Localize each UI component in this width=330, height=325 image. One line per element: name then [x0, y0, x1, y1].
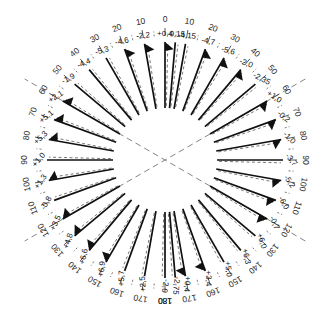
spoke-value-label: +0,4: [182, 276, 192, 293]
spoke-value-label: +3,4: [204, 270, 214, 287]
scale-label: 0: [163, 14, 168, 24]
scale-label: 10: [135, 16, 146, 28]
spoke-value-label: +2,5: [138, 275, 148, 292]
spoke-value-label: -0,15: [167, 29, 186, 39]
scale-label: 90: [301, 155, 311, 165]
scale-label: 80: [21, 130, 33, 141]
scale-label: 180: [158, 296, 172, 306]
polar-diagram-canvas: 0102030405060708090100110120130140150160…: [0, 0, 330, 325]
spoke-value-label: +5,7: [117, 270, 127, 287]
scale-label: 80: [298, 130, 310, 141]
polar-diagram-figure: 0102030405060708090100110120130140150160…: [0, 0, 330, 325]
scale-label: 90: [19, 155, 29, 165]
spoke-value-label: -2,2: [136, 30, 151, 40]
scale-label: 10: [184, 16, 195, 28]
